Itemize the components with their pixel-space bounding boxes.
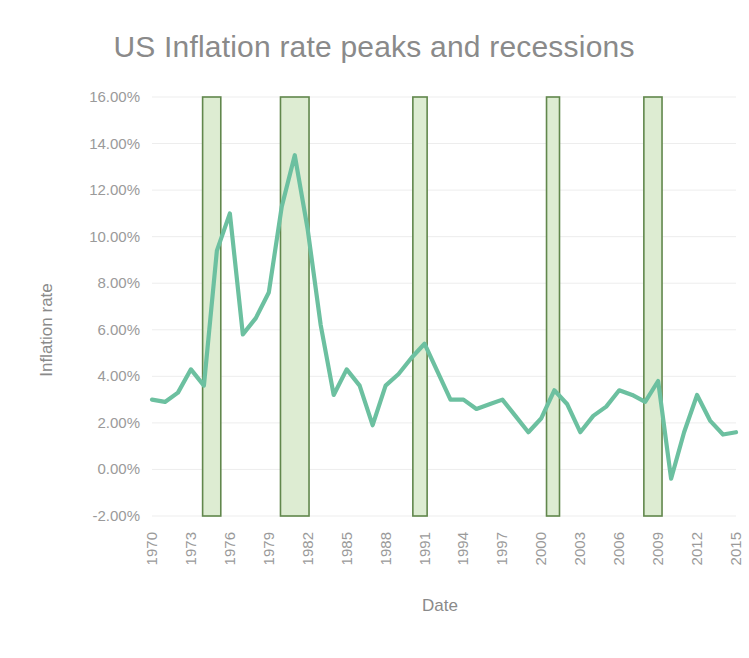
inflation-recession-line-chart: US Inflation rate peaks and recessions 1…	[0, 0, 749, 658]
y-axis-tick-label: 8.00%	[97, 274, 140, 291]
x-axis-tick-label: 1991	[416, 532, 433, 565]
x-axis-tick-label: 2015	[727, 532, 744, 565]
y-axis-tick-label: 10.00%	[89, 228, 140, 245]
recession-band	[547, 97, 560, 516]
y-axis-tick-label: 4.00%	[97, 367, 140, 384]
x-axis-tick-label: 2000	[532, 532, 549, 565]
x-axis-tick-label: 1979	[260, 532, 277, 565]
recession-band	[413, 97, 427, 516]
y-axis-tick-label: 6.00%	[97, 321, 140, 338]
x-axis-tick-label: 1970	[143, 532, 160, 565]
x-axis-tick-label: 1988	[377, 532, 394, 565]
y-axis-tick-label: 14.00%	[89, 135, 140, 152]
y-axis-tick-label: 0.00%	[97, 460, 140, 477]
x-axis-tick-label: 2003	[571, 532, 588, 565]
y-axis-tick-label: 16.00%	[89, 88, 140, 105]
recession-band	[644, 97, 662, 516]
x-axis-tick-label: 2012	[688, 532, 705, 565]
y-axis-tick-label: 12.00%	[89, 181, 140, 198]
y-axis-title: Inflation rate	[37, 283, 56, 377]
x-axis-tick-label: 1973	[182, 532, 199, 565]
x-axis-tick-label: 1985	[338, 532, 355, 565]
chart-container: US Inflation rate peaks and recessions 1…	[0, 0, 749, 658]
y-axis-tick-label: 2.00%	[97, 414, 140, 431]
x-axis-tick-label: 1994	[454, 532, 471, 565]
x-axis-tick-label: 2006	[610, 532, 627, 565]
x-axis-title: Date	[422, 596, 458, 615]
x-axis-tick-label: 1997	[493, 532, 510, 565]
y-axis-tick-label: -2.00%	[92, 507, 140, 524]
x-axis-tick-label: 1982	[299, 532, 316, 565]
x-axis-tick-label: 2009	[649, 532, 666, 565]
chart-title: US Inflation rate peaks and recessions	[113, 30, 634, 63]
x-axis-tick-label: 1976	[221, 532, 238, 565]
